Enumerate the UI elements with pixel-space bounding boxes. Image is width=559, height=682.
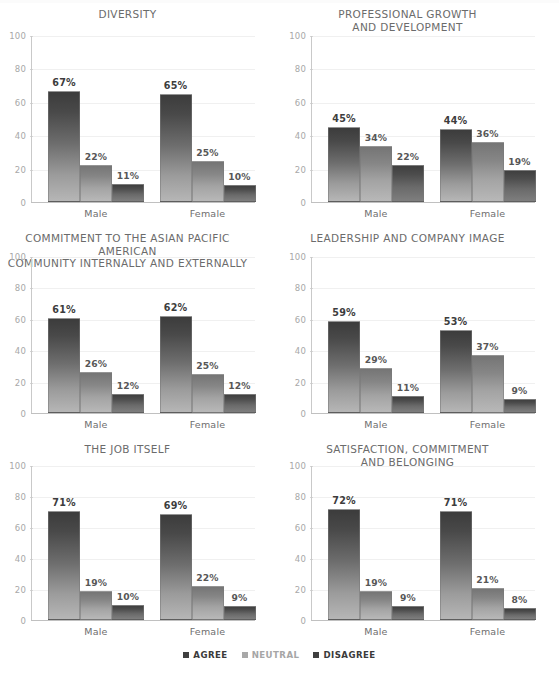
bar-value-label: 22% (397, 151, 419, 162)
x-axis-line (31, 202, 255, 203)
x-axis-category-label: Female (470, 419, 506, 430)
bar-value-label: 21% (476, 574, 498, 585)
bar-neutral-female (472, 355, 504, 413)
plot-area: 02040608010067%22%11%65%25%10% (31, 36, 255, 203)
bars-container: 61%26%12%62%25%12% (32, 257, 255, 413)
bar-neutral-male (360, 591, 392, 620)
y-axis-tick-label: 60 (15, 315, 26, 325)
bar-disagree-female (224, 394, 256, 413)
bar-disagree-female (504, 608, 536, 620)
y-axis-tick-label: 60 (295, 98, 306, 108)
x-axis-category-label: Female (190, 208, 226, 219)
y-axis-tick-label: 100 (289, 31, 306, 41)
bar-disagree-female (224, 185, 256, 202)
bar-disagree-male (112, 605, 144, 620)
bar-neutral-male (80, 165, 112, 202)
bar-value-label: 29% (365, 354, 387, 365)
bar-value-label: 36% (476, 128, 498, 139)
bar-value-label: 10% (228, 171, 250, 182)
x-axis-category-label: Female (470, 626, 506, 637)
bar-value-label: 59% (332, 307, 355, 318)
chart-title: DIVERSITY (0, 8, 255, 21)
bar-value-label: 37% (476, 341, 498, 352)
bar-disagree-male (392, 165, 424, 202)
bar-neutral-male (80, 372, 112, 413)
bar-agree-male (48, 511, 80, 620)
bar-value-label: 61% (52, 304, 75, 315)
x-axis-category-label: Female (470, 208, 506, 219)
bar-agree-male (48, 318, 80, 413)
legend-label: DISAGREE (323, 650, 375, 660)
y-axis-tick-label: 20 (295, 378, 306, 388)
chart-title: PROFESSIONAL GROWTH AND DEVELOPMENT (280, 8, 535, 33)
bar-value-label: 71% (52, 497, 75, 508)
bar-value-label: 65% (164, 80, 187, 91)
bar-agree-female (440, 129, 472, 202)
y-axis-tick-label: 40 (15, 346, 26, 356)
x-axis-category-label: Male (84, 626, 107, 637)
bar-value-label: 34% (365, 132, 387, 143)
legend-swatch-icon (313, 652, 319, 658)
y-axis-tick-label: 20 (295, 165, 306, 175)
bar-value-label: 25% (196, 360, 218, 371)
bar-value-label: 12% (117, 380, 139, 391)
y-axis-tick-label: 100 (9, 461, 26, 471)
y-axis-tick-label: 100 (289, 461, 306, 471)
x-axis-line (31, 620, 255, 621)
bar-disagree-male (112, 184, 144, 202)
legend-item-disagree: DISAGREE (313, 650, 375, 660)
y-axis-tick-label: 0 (20, 616, 26, 626)
legend-swatch-icon (183, 652, 189, 658)
bar-agree-female (160, 316, 192, 413)
bar-value-label: 67% (52, 77, 75, 88)
bar-neutral-female (192, 586, 224, 620)
bar-agree-male (48, 91, 80, 202)
y-axis-tick-label: 40 (295, 346, 306, 356)
y-axis-tick-label: 0 (300, 409, 306, 419)
bar-value-label: 72% (332, 495, 355, 506)
bar-agree-male (328, 509, 360, 620)
shared-legend: AGREENEUTRALDISAGREE (0, 650, 559, 660)
x-axis-category-label: Male (364, 419, 387, 430)
bar-neutral-female (192, 161, 224, 203)
plot-area: 02040608010072%19%9%71%21%8% (311, 466, 535, 621)
chart-title: SATISFACTION, COMMITMENT AND BELONGING (280, 443, 535, 468)
y-axis-tick-label: 60 (295, 523, 306, 533)
y-axis-tick-label: 100 (9, 31, 26, 41)
bar-value-label: 19% (365, 577, 387, 588)
bar-agree-male (328, 321, 360, 413)
bar-disagree-male (112, 394, 144, 413)
chart-title: LEADERSHIP AND COMPANY IMAGE (280, 232, 535, 245)
x-axis-category-label: Male (364, 208, 387, 219)
y-axis-tick-label: 80 (295, 283, 306, 293)
y-axis-tick-label: 20 (15, 165, 26, 175)
bar-value-label: 44% (444, 115, 467, 126)
bar-neutral-female (192, 374, 224, 413)
y-axis-tick-label: 60 (15, 523, 26, 533)
bar-value-label: 22% (85, 151, 107, 162)
bar-value-label: 25% (196, 147, 218, 158)
bar-value-label: 11% (397, 382, 419, 393)
x-axis-category-label: Female (190, 626, 226, 637)
bar-value-label: 26% (85, 358, 107, 369)
bar-value-label: 9% (512, 385, 528, 396)
y-axis-tick-label: 20 (295, 585, 306, 595)
x-axis-line (311, 202, 535, 203)
y-axis-tick-label: 20 (15, 585, 26, 595)
y-axis-tick-label: 0 (300, 616, 306, 626)
bar-agree-female (440, 330, 472, 413)
bar-neutral-female (472, 142, 504, 202)
bar-agree-female (160, 94, 192, 202)
y-axis-tick-label: 0 (20, 409, 26, 419)
bar-disagree-male (392, 606, 424, 620)
bar-agree-male (328, 127, 360, 202)
bar-value-label: 22% (196, 572, 218, 583)
bar-neutral-male (360, 146, 392, 202)
bar-value-label: 10% (117, 591, 139, 602)
bar-value-label: 9% (232, 592, 248, 603)
bar-disagree-female (224, 606, 256, 620)
legend-item-neutral: NEUTRAL (242, 650, 300, 660)
y-axis-tick-label: 40 (15, 131, 26, 141)
legend-label: AGREE (193, 650, 227, 660)
plot-area: 02040608010061%26%12%62%25%12% (31, 257, 255, 414)
